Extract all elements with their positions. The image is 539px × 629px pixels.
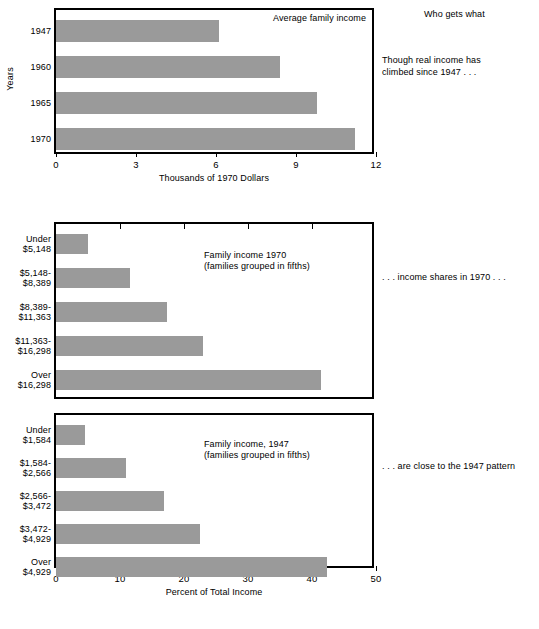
x-tick-label: 6 bbox=[213, 159, 218, 170]
x-tick-label: 12 bbox=[371, 159, 382, 170]
category-label: Under $5,148 bbox=[23, 234, 51, 255]
bar bbox=[56, 370, 321, 390]
chart2-plot-area: Family income 1970 (families grouped in … bbox=[54, 222, 374, 399]
chart3-caption: Family income, 1947 (families grouped in… bbox=[204, 439, 310, 461]
chart-page: Who gets what Though real income has cli… bbox=[0, 0, 539, 629]
category-label: Under $1,584 bbox=[23, 425, 51, 446]
bar bbox=[56, 458, 126, 478]
x-axis-title: Thousands of 1970 Dollars bbox=[56, 173, 372, 183]
x-tick-label: 50 bbox=[371, 573, 382, 584]
bar bbox=[56, 92, 317, 114]
category-label: $2,566- $3,472 bbox=[20, 491, 51, 512]
category-label: $3,472- $4,929 bbox=[20, 524, 51, 545]
annotation-income-shares-1970: . . . income shares in 1970 . . . bbox=[382, 272, 506, 284]
page-title: Who gets what bbox=[424, 9, 485, 19]
x-tick-top bbox=[184, 223, 185, 229]
x-tick bbox=[296, 152, 297, 157]
x-axis-title: Percent of Total Income bbox=[56, 587, 372, 597]
category-label: $1,584- $2,566 bbox=[20, 458, 51, 479]
chart-family-income-1970: Family income 1970 (families grouped in … bbox=[0, 210, 380, 405]
x-tick bbox=[216, 152, 217, 157]
bar bbox=[56, 302, 167, 322]
category-label: 1960 bbox=[31, 62, 51, 73]
x-tick-label: 3 bbox=[133, 159, 138, 170]
chart3-plot-area: Family income, 1947 (families grouped in… bbox=[54, 413, 374, 568]
x-tick bbox=[376, 152, 377, 157]
x-tick bbox=[376, 566, 377, 571]
chart2-caption: Family income 1970 (families grouped in … bbox=[204, 250, 310, 272]
bar bbox=[56, 491, 164, 511]
bar bbox=[56, 557, 327, 577]
bar bbox=[56, 234, 88, 254]
bar bbox=[56, 425, 85, 445]
x-tick-top bbox=[120, 223, 121, 229]
x-tick-top bbox=[248, 223, 249, 229]
category-label: 1947 bbox=[31, 26, 51, 37]
bar bbox=[56, 524, 200, 544]
bar bbox=[56, 20, 219, 42]
chart1-y-axis-title: Years bbox=[5, 59, 15, 99]
x-tick bbox=[136, 152, 137, 157]
x-tick-label: 9 bbox=[293, 159, 298, 170]
bar bbox=[56, 56, 280, 78]
x-tick bbox=[56, 152, 57, 157]
chart1-plot-area: Average family income 036912Thousands of… bbox=[54, 8, 374, 154]
category-label: $11,363- $16,298 bbox=[15, 336, 51, 357]
x-tick-label: 0 bbox=[53, 159, 58, 170]
chart1-x-axis: 036912Thousands of 1970 Dollars bbox=[56, 152, 372, 182]
category-label: 1965 bbox=[31, 98, 51, 109]
category-label: $5,148- $8,389 bbox=[20, 268, 51, 289]
chart-family-income-1947: Family income, 1947 (families grouped in… bbox=[0, 403, 380, 629]
bar bbox=[56, 128, 355, 150]
bar bbox=[56, 336, 203, 356]
annotation-income-climbed: Though real income has climbed since 194… bbox=[382, 55, 481, 78]
category-label: 1970 bbox=[31, 134, 51, 145]
category-label: Over $4,929 bbox=[23, 557, 51, 578]
bar bbox=[56, 268, 130, 288]
category-label: Over $16,298 bbox=[18, 370, 51, 391]
chart-average-family-income: Years Average family income 036912Thousa… bbox=[0, 0, 380, 200]
x-tick-top bbox=[312, 223, 313, 229]
annotation-1947-pattern: . . . are close to the 1947 pattern bbox=[382, 461, 515, 473]
chart1-caption: Average family income bbox=[273, 13, 366, 24]
category-label: $8,389- $11,363 bbox=[18, 302, 51, 323]
